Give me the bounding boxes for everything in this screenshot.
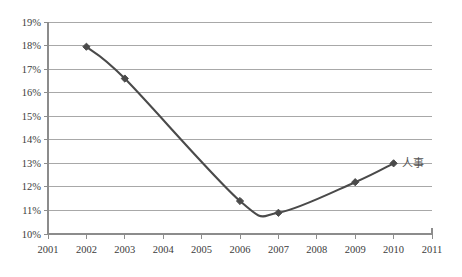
line-chart: 10%11%12%13%14%15%16%17%18%19% 200120022… bbox=[0, 0, 462, 277]
y-tick-label-11%: 11% bbox=[22, 205, 41, 216]
x-tick-label-2011: 2011 bbox=[422, 244, 443, 255]
y-tick-label-19%: 19% bbox=[22, 17, 42, 28]
y-tick-label-13%: 13% bbox=[22, 158, 42, 169]
x-tick-label-2009: 2009 bbox=[345, 244, 366, 255]
x-tick-label-2005: 2005 bbox=[191, 244, 212, 255]
x-tick-label-2004: 2004 bbox=[153, 244, 175, 255]
chart-canvas: 10%11%12%13%14%15%16%17%18%19% 200120022… bbox=[0, 0, 462, 277]
x-tick-label-2003: 2003 bbox=[114, 244, 135, 255]
y-tick-label-12%: 12% bbox=[22, 181, 42, 192]
x-tick-label-2010: 2010 bbox=[383, 244, 404, 255]
y-tick-label-14%: 14% bbox=[22, 134, 42, 145]
annotation-group: 人事 bbox=[402, 157, 424, 169]
y-tick-label-15%: 15% bbox=[22, 111, 42, 122]
x-tick-label-2002: 2002 bbox=[76, 244, 97, 255]
y-tick-label-18%: 18% bbox=[22, 40, 42, 51]
x-tick-label-2006: 2006 bbox=[230, 244, 251, 255]
x-tick-label-2008: 2008 bbox=[306, 244, 327, 255]
x-tick-label-2001: 2001 bbox=[38, 244, 59, 255]
chart-background bbox=[0, 0, 462, 277]
y-tick-label-10%: 10% bbox=[22, 229, 42, 240]
series-annotation-label: 人事 bbox=[402, 157, 424, 169]
x-tick-label-2007: 2007 bbox=[268, 244, 289, 255]
y-tick-label-16%: 16% bbox=[22, 87, 42, 98]
y-tick-label-17%: 17% bbox=[22, 64, 42, 75]
